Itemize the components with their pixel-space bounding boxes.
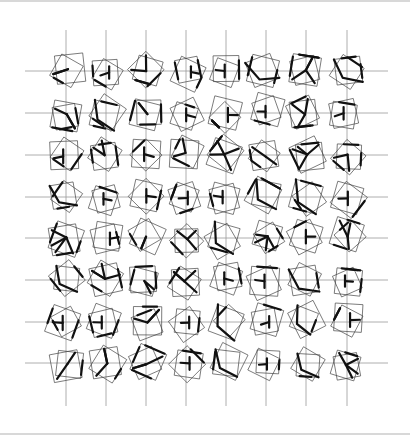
glyph-cell [288, 300, 326, 338]
glyph-cell [129, 99, 161, 131]
glyph-cell [210, 342, 248, 380]
glyph-cell [208, 304, 245, 340]
glyph-cell [252, 220, 285, 253]
glyph-cell [286, 95, 320, 129]
glyph-cell [208, 96, 242, 134]
glyph-matrix [45, 51, 368, 383]
glyph-cell [88, 185, 120, 216]
glyph-cell [88, 137, 123, 172]
glyph-cell [169, 346, 206, 383]
glyph-cell [168, 306, 204, 342]
glyph-cell [168, 182, 201, 215]
glyph-cell [131, 307, 163, 341]
glyph-cell [89, 94, 127, 132]
glyph-cell [49, 350, 83, 383]
glyph-cell [48, 260, 85, 297]
glyph-cell [92, 59, 123, 90]
glyph-cell [248, 140, 280, 172]
glyph-cell [246, 265, 281, 300]
glyph-cell [289, 54, 322, 87]
glyph-cell [286, 219, 323, 255]
glyph-cell [291, 347, 326, 382]
glyph-cell [329, 217, 366, 252]
glyph-cell [250, 303, 284, 337]
glyph-cell [208, 182, 240, 214]
plotter-artwork [0, 0, 410, 436]
glyph-cell [204, 222, 240, 260]
glyph-cell [128, 218, 166, 255]
glyph-cell [329, 98, 359, 129]
glyph-cell [244, 176, 282, 214]
glyph-cell [50, 137, 84, 171]
glyph-cell [288, 262, 322, 296]
glyph-cell [169, 224, 203, 258]
glyph-cell [86, 303, 121, 338]
glyph-cell [206, 134, 244, 174]
glyph-cell [170, 56, 206, 92]
glyph-cell [209, 56, 239, 88]
glyph-cell [127, 51, 164, 88]
glyph-cell [169, 135, 204, 169]
glyph-cell [45, 305, 82, 341]
glyph-cell [289, 136, 327, 174]
glyph-cell [89, 345, 127, 383]
grid-lines [25, 30, 388, 406]
glyph-cell [167, 266, 201, 300]
glyph-cell [251, 92, 285, 126]
glyph-cell [331, 139, 366, 174]
glyph-cell [288, 179, 326, 216]
glyph-cell [245, 53, 279, 87]
glyph-cell [129, 266, 158, 296]
glyph-cell [330, 181, 367, 218]
glyph-cell [248, 348, 281, 381]
glyph-cell [87, 260, 123, 297]
glyph-cell [128, 343, 166, 380]
glyph-cell [170, 97, 204, 131]
glyph-cell [50, 53, 86, 88]
glyph-cell [330, 350, 361, 381]
glyph-cell [332, 267, 362, 297]
